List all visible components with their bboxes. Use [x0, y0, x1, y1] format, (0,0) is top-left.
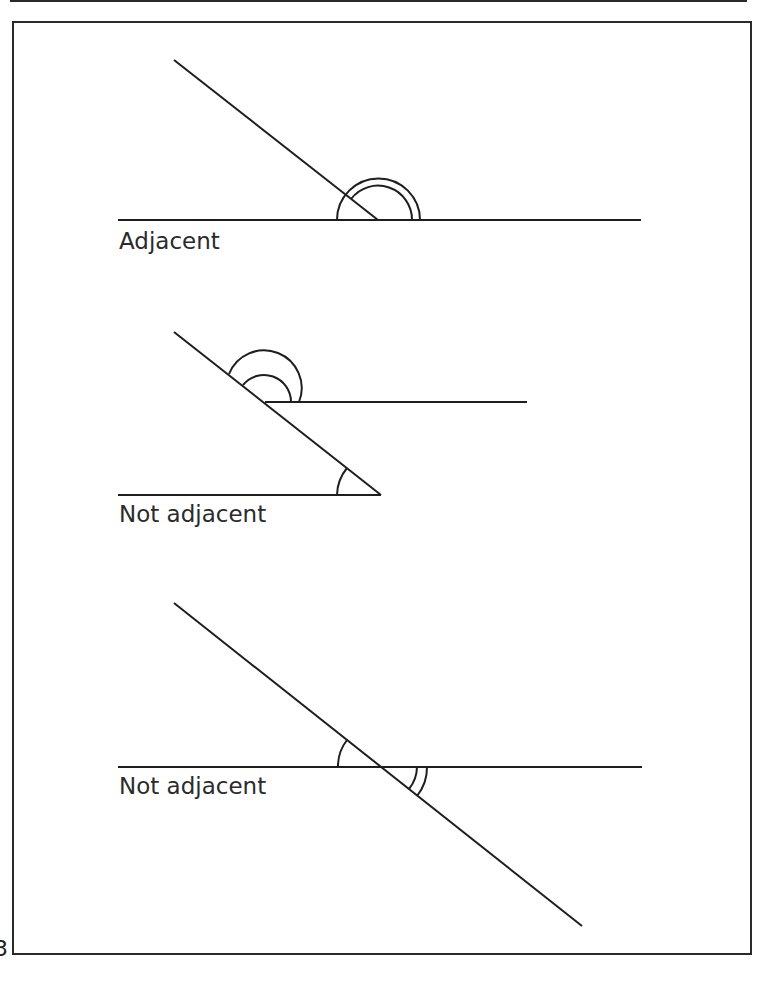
label-not-adjacent-2: Not adjacent [119, 773, 266, 799]
angle-arc-inner [351, 186, 412, 220]
diagram-not-adjacent-1 [118, 332, 527, 495]
transversal [174, 332, 381, 495]
single-arc [337, 468, 347, 495]
diagram-adjacent [118, 60, 641, 220]
double-arc-outer [417, 767, 427, 796]
diagram-not-adjacent-2 [118, 603, 642, 926]
double-arc-inner [243, 375, 291, 402]
double-arc-inner [409, 767, 417, 789]
angles-figure [0, 0, 784, 990]
label-adjacent: Adjacent [119, 228, 220, 254]
label-not-adjacent-1: Not adjacent [119, 501, 266, 527]
slanted-ray [174, 60, 378, 220]
transversal [174, 603, 582, 926]
single-arc [338, 740, 347, 767]
